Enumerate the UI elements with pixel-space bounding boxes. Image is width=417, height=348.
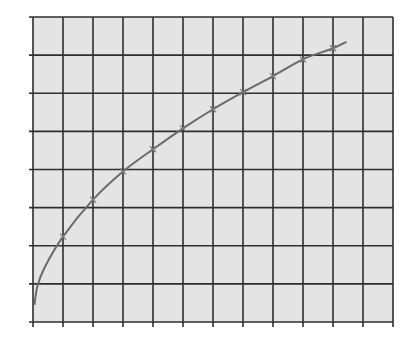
sqrt-curve-chart (0, 0, 417, 348)
